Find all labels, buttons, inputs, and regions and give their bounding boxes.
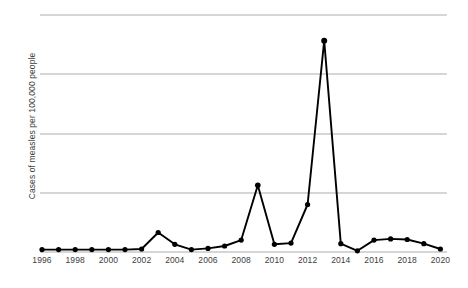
x-tick-2018: 2018 xyxy=(390,255,424,265)
x-tick-1996: 1996 xyxy=(25,255,59,265)
gridlines xyxy=(40,15,447,193)
x-tick-2014: 2014 xyxy=(324,255,358,265)
figure-container: Cases of measles per 100,000 people xyxy=(0,0,468,288)
x-tick-2002: 2002 xyxy=(125,255,159,265)
x-tick-2004: 2004 xyxy=(158,255,192,265)
x-tick-2008: 2008 xyxy=(224,255,258,265)
measles-line-chart: Cases of measles per 100,000 people xyxy=(0,0,468,272)
x-tick-2016: 2016 xyxy=(357,255,391,265)
plot-canvas xyxy=(0,0,468,272)
data-series-measles xyxy=(39,38,443,254)
x-tick-2006: 2006 xyxy=(191,255,225,265)
x-tick-1998: 1998 xyxy=(58,255,92,265)
x-tick-2000: 2000 xyxy=(91,255,125,265)
x-tick-2012: 2012 xyxy=(291,255,325,265)
x-tick-2010: 2010 xyxy=(257,255,291,265)
x-tick-2020: 2020 xyxy=(423,255,457,265)
data-point-markers xyxy=(39,38,443,254)
